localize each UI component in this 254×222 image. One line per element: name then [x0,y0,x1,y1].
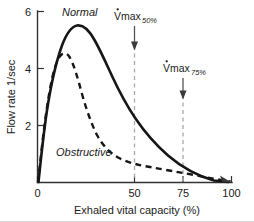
vmax50-subscript: 50% [142,16,157,25]
annotation-vmax50: V max 50% [114,8,157,50]
y-axis-title: Flow rate 1/sec [5,59,17,134]
curve-label-normal: Normal [62,6,98,18]
vmax75-base: max [170,62,191,74]
vmax75-symbol: V [163,62,170,74]
vmax50-symbol: V [114,10,121,22]
flow-volume-loop-chart: 6 4 2 0 50 75 100 Exhaled vital capacity… [0,0,254,222]
vmax75-subscript: 75% [191,68,206,77]
x-tick-label-75: 75 [177,187,189,199]
y-tick-label-2: 2 [25,120,31,132]
vmax75-overdot [166,60,168,62]
chart-svg: 6 4 2 0 50 75 100 Exhaled vital capacity… [0,0,254,222]
x-tick-label-0: 0 [34,187,40,199]
curve-normal [39,25,229,182]
x-axis-title: Exhaled vital capacity (%) [74,204,200,216]
annotation-vmax75: V max 75% [163,60,206,99]
x-tick-label-50: 50 [128,187,140,199]
vmax50-arrow-head [131,42,138,51]
y-tick-label-4: 4 [25,63,31,75]
vmax50-base: max [121,10,142,22]
y-tick-label-6: 6 [25,6,31,18]
curve-label-obstructive: Obstructive [56,146,112,158]
vmax50-overdot [117,8,119,10]
x-tick-label-100: 100 [222,187,240,199]
vmax75-arrow-head [180,91,187,100]
